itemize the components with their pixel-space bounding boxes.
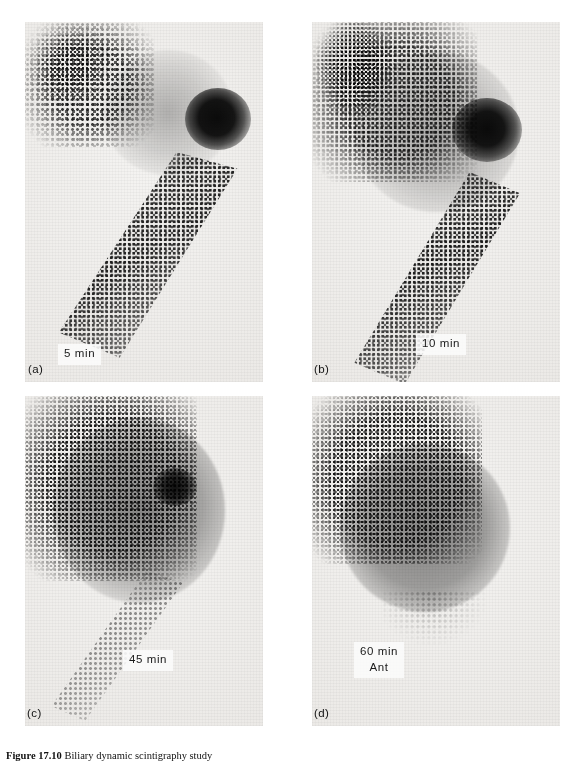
panel-c-letter: (c) [27, 707, 42, 719]
figure-page: 5 min (a) 10 min (b) 45 min (c) 60 minAn… [0, 0, 585, 764]
focal-hotspot-b [452, 98, 522, 162]
figure-caption-label: Figure 17.10 [6, 750, 62, 761]
panel-a-letter: (a) [28, 363, 43, 375]
panel-d-view-value: Ant [370, 661, 389, 673]
panel-d-time-value: 60 min [360, 645, 398, 657]
panel-b-letter: (b) [314, 363, 329, 375]
focal-hotspot-c [153, 468, 197, 506]
hotspot-speckle-a [25, 22, 115, 108]
panel-b-time-label: 10 min [416, 334, 466, 355]
scintigram-panel-c: 45 min (c) [25, 396, 263, 726]
scintigram-panel-a: 5 min (a) [25, 22, 263, 382]
hotspot-speckle-b [312, 22, 404, 110]
panel-a-time-label: 5 min [58, 344, 101, 365]
scintigram-panel-b: 10 min (b) [312, 22, 560, 382]
panel-c-time-label: 45 min [123, 650, 173, 671]
focal-hotspot-a [185, 88, 251, 150]
scintigram-panel-d: 60 minAnt (d) [312, 396, 560, 726]
figure-caption: Figure 17.10 Biliary dynamic scintigraph… [6, 749, 566, 764]
panel-d-time-label: 60 minAnt [354, 642, 404, 678]
count-speckle-cloud-d [312, 396, 482, 564]
panel-d-letter: (d) [314, 707, 329, 719]
figure-caption-text: Biliary dynamic scintigraphy study [64, 750, 212, 761]
